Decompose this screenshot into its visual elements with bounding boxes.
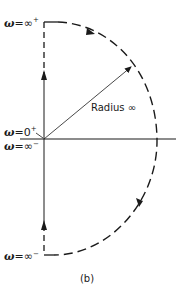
label-omega-zero-plus: ω=0+ (4, 125, 37, 139)
arrow-up-icon (41, 220, 47, 230)
origin-pointer (36, 133, 43, 138)
label-omega-inf-plus: ω=∞+ (4, 16, 39, 30)
arrow-up-icon (41, 70, 47, 80)
nyquist-contour-diagram: ω=∞+ ω=0+ ω=∞− ω=∞− Radius ∞ (b) (0, 0, 181, 289)
label-omega-inf-minus-origin: ω=∞− (4, 140, 39, 153)
label-omega-inf-minus-bottom: ω=∞− (4, 250, 39, 263)
label-radius: Radius ∞ (91, 102, 136, 113)
figure-caption: (b) (80, 273, 94, 284)
